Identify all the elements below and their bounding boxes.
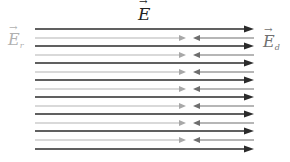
opposing-field-lines	[35, 35, 254, 143]
total-field-label: E	[138, 6, 150, 23]
arrow-left-icon	[193, 137, 200, 143]
arrow-left-icon	[193, 35, 200, 41]
arrow-right-icon	[179, 137, 186, 143]
arrow-left-icon	[193, 120, 200, 126]
arrow-right-icon	[244, 43, 254, 50]
field-diagram	[0, 0, 290, 162]
arrow-right-icon	[244, 111, 254, 118]
arrow-right-icon	[179, 35, 186, 41]
arrow-right-icon	[244, 146, 254, 153]
arrow-right-icon	[179, 52, 186, 58]
arrow-right-icon	[244, 60, 254, 67]
arrow-right-icon	[179, 103, 186, 109]
arrow-right-icon	[244, 26, 254, 33]
reflected-field-label: Er	[8, 32, 24, 50]
arrow-right-icon	[179, 69, 186, 75]
direct-field-label: Ed	[263, 34, 280, 52]
arrow-left-icon	[193, 52, 200, 58]
arrow-right-icon	[244, 94, 254, 101]
arrow-left-icon	[193, 86, 200, 92]
arrow-right-icon	[244, 128, 254, 135]
arrow-left-icon	[193, 103, 200, 109]
arrow-right-icon	[244, 77, 254, 84]
arrow-left-icon	[193, 69, 200, 75]
arrow-right-icon	[179, 120, 186, 126]
arrow-right-icon	[179, 86, 186, 92]
